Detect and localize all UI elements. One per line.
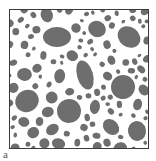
microstructure-image	[9, 9, 149, 149]
panel-label: a	[3, 148, 8, 160]
grain-pattern	[9, 9, 149, 149]
